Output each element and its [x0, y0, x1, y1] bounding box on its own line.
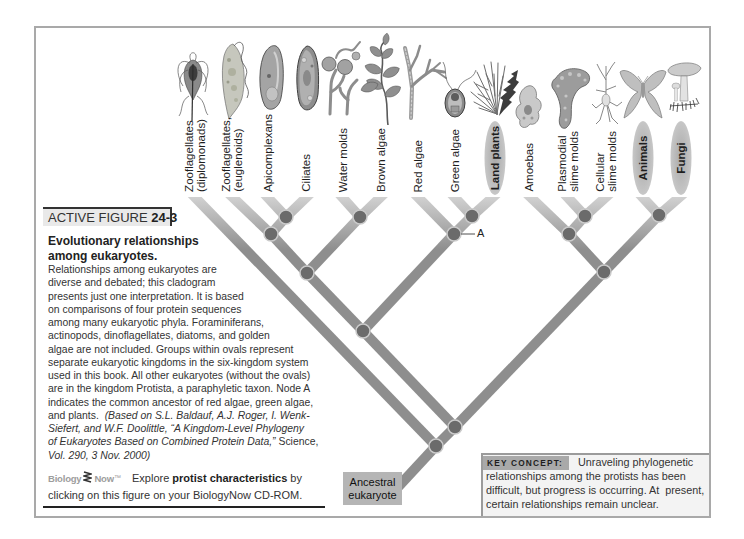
caption-line: algae are not included. Groups within ov… — [48, 343, 318, 356]
caption-line: presents just one interpretation. It is … — [48, 290, 318, 303]
taxon-label-fungi: Fungi — [675, 142, 687, 173]
plasmodial-slime-mold-icon — [552, 69, 590, 129]
caption-title-line: Evolutionary relationships — [48, 234, 199, 249]
figure-header-prefix: ACTIVE FIGURE — [48, 210, 148, 225]
biologynow-callout: BiologyNow™ Explore protist characterist… — [48, 470, 302, 503]
key-concept-line: relationships among the protists has bee… — [483, 470, 709, 484]
caption-line: actinopods, dinoflagellates, diatoms, an… — [48, 329, 318, 342]
water-mold-icon — [322, 42, 360, 114]
trademark-symbol: ™ — [114, 474, 121, 481]
taxon-label-water-molds: Water molds — [337, 128, 349, 192]
explore-text: Explore protist characteristics by — [132, 470, 302, 486]
key-concept-box: KEY CONCEPT:Unraveling phylogenetic rela… — [481, 453, 709, 516]
taxon-label-amoebas: Amoebas — [523, 143, 535, 192]
caption-line: Siefert, and W.F. Doolittle, “A Kingdom-… — [48, 422, 318, 435]
taxon-label-animals: Animals — [637, 136, 649, 181]
citation-text: (Based on S.L. Baldauf, A.J. Roger, I. W… — [105, 410, 310, 421]
node-a-label: A — [477, 227, 484, 239]
amoeba-icon — [516, 86, 541, 128]
figure-number: 24-3 — [151, 210, 177, 225]
taxon-label-apicomplexans: Apicomplexans — [262, 114, 274, 192]
moth-icon — [620, 71, 666, 119]
euglenoid-icon — [222, 42, 248, 119]
citation-text: Vol. 290, 3 Nov. 2000) — [48, 450, 150, 461]
biologynow-logo-right: Now — [94, 473, 113, 484]
red-algae-icon — [405, 46, 446, 118]
caption-line: Relationships among eukaryotes are — [48, 263, 318, 276]
caption-title-line: among eukaryotes. — [48, 249, 199, 264]
taxon-label-green-algae: Green algae — [449, 129, 461, 192]
land-plant-icon — [471, 62, 519, 116]
mushroom-icon — [668, 63, 701, 112]
key-concept-line: KEY CONCEPT:Unraveling phylogenetic — [483, 456, 709, 470]
biologynow-line-2: clicking on this figure on your BiologyN… — [48, 487, 302, 503]
citation-journal: Science, — [276, 436, 319, 447]
taxon-label-ciliates: Ciliates — [300, 154, 312, 192]
key-concept-text: Unraveling phylogenetic — [578, 456, 693, 468]
caption-line: indicates the common ancestor of red alg… — [48, 396, 318, 409]
dna-spiral-icon — [83, 471, 92, 484]
figure-header: ACTIVE FIGURE 24-3 — [43, 207, 172, 226]
caption-line: used in this book. All other eukaryotes … — [48, 369, 318, 382]
caption-line: diverse and debated; this cladogram — [48, 276, 318, 289]
ciliate-icon — [297, 46, 319, 110]
biologynow-logo-left: Biology — [48, 473, 81, 484]
explore-prefix: Explore — [132, 472, 172, 484]
key-concept-label: KEY CONCEPT: — [483, 456, 569, 470]
explore-topic: protist characteristics — [172, 472, 287, 484]
key-concept-line: difficult, but progress is occurring. At… — [483, 484, 709, 498]
node-a — [447, 227, 461, 241]
taxon-label-land-plants: Land plants — [489, 126, 501, 191]
taxon-label-plasmodial-slime-molds: Plasmodial slime molds — [556, 131, 580, 192]
taxon-label-cellular-slime-molds: Cellular slime molds — [594, 131, 618, 192]
ancestral-eukaryote-box: Ancestral eukaryote — [343, 472, 402, 505]
caption-line: Vol. 290, 3 Nov. 2000) — [48, 449, 318, 462]
diplomonad-icon — [178, 53, 208, 121]
cellular-slime-mold-icon — [592, 62, 622, 124]
brown-algae-icon — [360, 33, 403, 125]
taxon-label-zooflagellates-euglenoids: Zooflagellates, (euglenoids) — [220, 117, 244, 192]
caption-title: Evolutionary relationships among eukaryo… — [48, 234, 199, 263]
key-concept-line: certain relationships remain unclear. — [483, 498, 709, 512]
caption-line: are in the kingdom Protista, a paraphyle… — [48, 382, 318, 395]
taxon-label-red-algae: Red algae — [412, 140, 424, 192]
green-algae-icon — [443, 62, 476, 117]
apicomplexan-icon — [260, 46, 283, 110]
caption-body: Relationships among eukaryotes are diver… — [48, 263, 318, 462]
caption-line: of Eukaryotes Based on Combined Protein … — [48, 435, 318, 448]
taxon-label-zooflagellates-diplomonads: Zooflagellates (diplomonads) — [183, 119, 207, 192]
explore-suffix: by — [287, 472, 302, 484]
taxon-label-brown-algae: Brown algae — [375, 128, 387, 192]
caption-bottom-rule — [43, 506, 325, 508]
biologynow-line-1: BiologyNow™ Explore protist characterist… — [48, 470, 302, 487]
caption-line: separate eukaryotic kingdoms in the six-… — [48, 356, 318, 369]
caption-line: among many eukaryotic phyla. Foraminifer… — [48, 316, 318, 329]
caption-line: on comparisons of four protein sequences — [48, 303, 318, 316]
caption-lead: and plants. — [48, 410, 105, 421]
citation-text: of Eukaryotes Based on Combined Protein … — [48, 436, 276, 447]
citation-text: Siefert, and W.F. Doolittle, “A Kingdom-… — [48, 423, 304, 434]
caption-line: and plants. (Based on S.L. Baldauf, A.J.… — [48, 409, 318, 422]
